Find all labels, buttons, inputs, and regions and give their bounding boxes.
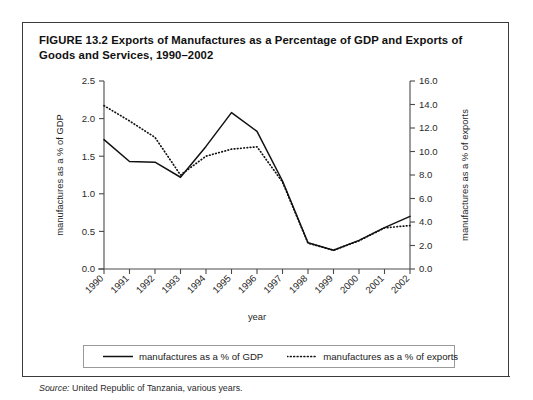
x-tick-label: 1996 xyxy=(236,273,259,296)
x-tick-label: 1992 xyxy=(134,273,157,296)
x-tick-label: 2000 xyxy=(338,273,361,296)
x-tick-label: 1995 xyxy=(210,273,233,296)
svg-text:0.0: 0.0 xyxy=(82,263,95,274)
svg-text:2.0: 2.0 xyxy=(82,113,95,124)
svg-text:12.0: 12.0 xyxy=(419,122,438,133)
x-tick-label: 1993 xyxy=(159,273,182,296)
svg-text:8.0: 8.0 xyxy=(419,169,432,180)
x-tick-label: 2002 xyxy=(389,273,412,296)
svg-text:0.0: 0.0 xyxy=(419,263,432,274)
series-line-gdp xyxy=(104,113,410,251)
source-text: United Republic of Tanzania, various yea… xyxy=(70,383,243,393)
x-tick-label: 1994 xyxy=(185,272,208,295)
x-tick-label: 2001 xyxy=(363,273,386,296)
y2-axis-title: manufactures as a % of exports xyxy=(459,109,470,241)
svg-text:2.0: 2.0 xyxy=(419,240,432,251)
svg-text:1.5: 1.5 xyxy=(82,151,95,162)
svg-text:0.5: 0.5 xyxy=(82,226,95,237)
legend-label-exports: manufactures as a % of exports xyxy=(323,351,458,362)
svg-text:14.0: 14.0 xyxy=(419,99,438,110)
source-lead: Source: xyxy=(39,383,70,393)
source-note: Source: United Republic of Tanzania, var… xyxy=(39,383,243,393)
y-axis-title: manufactures as a % of GDP xyxy=(54,114,65,235)
legend-item-exports: manufactures as a % of exports xyxy=(287,351,458,362)
x-tick-label: 1998 xyxy=(287,273,310,296)
line-chart: 0.00.51.01.52.02.50.02.04.06.08.010.012.… xyxy=(23,23,510,378)
source-divider xyxy=(23,376,510,377)
svg-text:1.0: 1.0 xyxy=(82,188,95,199)
svg-text:4.0: 4.0 xyxy=(419,216,432,227)
chart-legend: manufactures as a % of GDP manufactures … xyxy=(83,345,455,368)
x-tick-label: 1990 xyxy=(83,273,106,296)
chart-axes xyxy=(98,81,415,274)
legend-swatch-solid-icon xyxy=(103,352,133,361)
svg-text:16.0: 16.0 xyxy=(419,75,438,86)
legend-swatch-dotted-icon xyxy=(287,352,317,361)
x-tick-label: 1997 xyxy=(261,273,284,296)
chart-series-group xyxy=(104,106,410,251)
x-tick-label: 1991 xyxy=(108,273,131,296)
x-axis-title: year xyxy=(248,311,266,322)
svg-text:10.0: 10.0 xyxy=(419,146,438,157)
chart-canvas: 0.00.51.01.52.02.50.02.04.06.08.010.012.… xyxy=(23,23,510,378)
figure-panel: FIGURE 13.2 Exports of Manufactures as a… xyxy=(22,22,509,377)
legend-item-gdp: manufactures as a % of GDP xyxy=(103,351,263,362)
x-tick-label: 1999 xyxy=(312,273,335,296)
chart-labels-group: 0.00.51.01.52.02.50.02.04.06.08.010.012.… xyxy=(54,75,470,322)
series-line-exports xyxy=(104,106,410,251)
svg-text:6.0: 6.0 xyxy=(419,193,432,204)
svg-text:2.5: 2.5 xyxy=(82,75,95,86)
legend-label-gdp: manufactures as a % of GDP xyxy=(139,351,263,362)
